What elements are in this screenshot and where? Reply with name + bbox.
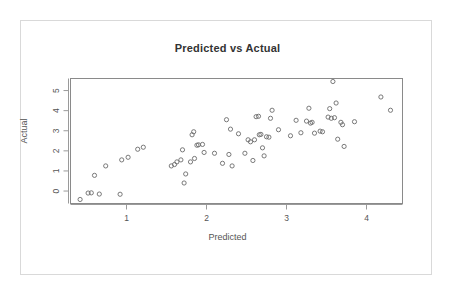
data-point (379, 95, 383, 99)
x-tick-label: 4 (364, 213, 369, 223)
x-tick-labels: 1234 (124, 213, 369, 223)
data-point (304, 119, 308, 123)
data-point (192, 156, 196, 160)
data-point (200, 142, 204, 146)
data-point (120, 158, 124, 162)
data-point (188, 160, 192, 164)
data-point (118, 192, 122, 196)
data-point (212, 151, 216, 155)
data-point (312, 131, 316, 135)
data-point (307, 106, 311, 110)
data-point (268, 116, 272, 120)
data-point (202, 150, 206, 154)
y-tick-label: 3 (51, 128, 61, 133)
y-tick-label: 4 (51, 108, 61, 113)
data-point (180, 148, 184, 152)
data-point (224, 118, 228, 122)
y-tick-label: 1 (51, 168, 61, 173)
data-point (184, 172, 188, 176)
data-point (336, 137, 340, 141)
data-point (270, 108, 274, 112)
y-axis-title: Actual (19, 91, 29, 171)
data-point (276, 128, 280, 132)
data-point (260, 146, 264, 150)
x-axis: 1234 (71, 205, 403, 224)
data-point (342, 144, 346, 148)
data-point (92, 173, 96, 177)
data-point (294, 118, 298, 122)
data-point (331, 79, 335, 83)
data-point (352, 120, 356, 124)
data-point (97, 192, 101, 196)
y-tick-label: 5 (51, 88, 61, 93)
data-point (141, 145, 145, 149)
plot-box (71, 79, 403, 204)
y-tick-marks (64, 91, 69, 191)
data-point (243, 151, 247, 155)
data-point (126, 155, 130, 159)
y-tick-label: 2 (51, 148, 61, 153)
data-points (78, 79, 393, 201)
y-axis: 012345 (51, 79, 69, 204)
figure-canvas: Predicted vs Actual 1234 012345 Predicte… (0, 0, 455, 295)
x-axis-title: Predicted (0, 232, 455, 242)
x-tick-marks (127, 205, 367, 210)
data-point (175, 160, 179, 164)
data-point (236, 132, 240, 136)
y-tick-label: 0 (51, 188, 61, 193)
data-point (334, 101, 338, 105)
data-point (252, 138, 256, 142)
x-tick-label: 1 (124, 213, 129, 223)
data-point (230, 164, 234, 168)
y-tick-labels: 012345 (51, 88, 61, 193)
data-point (328, 107, 332, 111)
data-point (104, 164, 108, 168)
data-point (388, 108, 392, 112)
data-point (182, 181, 186, 185)
data-point (220, 161, 224, 165)
data-point (228, 127, 232, 131)
data-point (262, 154, 266, 158)
data-point (227, 152, 231, 156)
data-point (288, 134, 292, 138)
x-tick-label: 3 (284, 213, 289, 223)
data-point (299, 131, 303, 135)
scatter-plot: 1234 012345 (0, 0, 455, 295)
data-point (251, 158, 255, 162)
data-point (78, 197, 82, 201)
x-tick-label: 2 (204, 213, 209, 223)
plot-frame (71, 79, 403, 204)
data-point (179, 158, 183, 162)
data-point (136, 147, 140, 151)
